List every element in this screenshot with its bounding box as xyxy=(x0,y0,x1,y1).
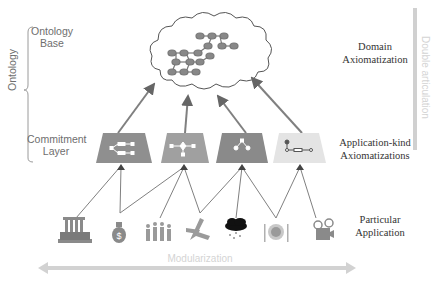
commitment-modules xyxy=(96,133,326,163)
ontology-base-line1: Ontology xyxy=(30,25,74,37)
arrowheads xyxy=(117,164,304,170)
application-kind-label: Application-kind Axiomatizations xyxy=(330,136,420,162)
bank-icon xyxy=(58,217,92,243)
module-3 xyxy=(216,133,268,163)
film-projector-icon xyxy=(314,219,334,240)
weather-icon xyxy=(225,218,247,239)
people-icon xyxy=(146,222,171,241)
domain-line1: Domain xyxy=(335,40,415,53)
money-bag-icon: $ xyxy=(112,222,126,243)
application-to-module-lines xyxy=(76,167,316,218)
commitment-layer-label: Commitment Layer xyxy=(27,133,85,157)
airplane-icon xyxy=(186,218,210,240)
svg-text:$: $ xyxy=(116,231,121,241)
ontology-base-line2: Base xyxy=(30,37,74,49)
commitment-line2: Layer xyxy=(27,145,85,157)
particular-line2: Application xyxy=(345,226,415,239)
dining-icon xyxy=(264,224,289,242)
ontology-base-label: Ontology Base xyxy=(30,25,74,49)
particular-line1: Particular xyxy=(345,213,415,226)
domain-axiomatization-label: Domain Axiomatization xyxy=(335,40,415,66)
double-articulation-label: Double articulation xyxy=(420,23,431,133)
double-articulation-bar xyxy=(413,8,417,150)
domain-line2: Axiomatization xyxy=(335,53,415,66)
ontology-label: Ontology xyxy=(6,48,18,92)
appkind-line2: Axiomatizations xyxy=(330,149,420,162)
particular-application-label: Particular Application xyxy=(345,213,415,239)
module-1 xyxy=(96,133,152,163)
appkind-line1: Application-kind xyxy=(330,136,420,149)
modularization-label: Modularization xyxy=(150,253,250,264)
commitment-line1: Commitment xyxy=(27,133,85,145)
